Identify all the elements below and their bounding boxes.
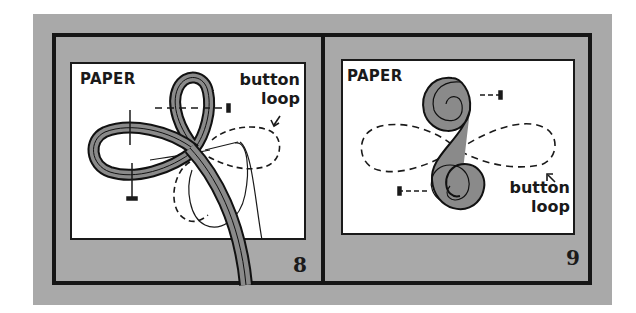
illustration-artwork <box>0 0 636 313</box>
arrow-icon-step-8 <box>271 116 280 126</box>
cord-spiral-step-9 <box>423 78 484 209</box>
arrow-icon-step-9 <box>547 174 555 182</box>
